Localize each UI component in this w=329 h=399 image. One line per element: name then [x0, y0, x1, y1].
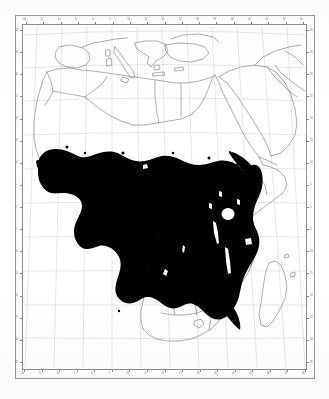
lon-label-bottom-16: 60	[302, 372, 305, 375]
lon-label-top-9: 25	[179, 18, 182, 21]
lat-tick-right-13	[307, 318, 309, 319]
lon-tick-bottom-6	[129, 370, 130, 372]
lon-tick-bottom-0	[24, 370, 25, 372]
lon-label-bottom-3: 5	[74, 372, 75, 375]
lon-tick-bottom-10	[200, 370, 201, 372]
lat-label-right-4: 20	[310, 117, 313, 120]
lat-tick-right-3	[307, 96, 309, 97]
lon-tick-bottom-4	[94, 370, 95, 372]
lat-label-right-7: 5	[310, 183, 311, 186]
lat-label-right-14: 30	[310, 338, 313, 341]
lon-label-top-7: 15	[144, 18, 147, 21]
lon-label-bottom-2: 10	[56, 372, 59, 375]
lat-label-left-14: 30	[15, 338, 18, 341]
lon-label-top-15: 55	[283, 18, 286, 21]
lat-tick-right-8	[307, 207, 309, 208]
lon-tick-bottom-1	[42, 370, 43, 372]
lat-tick-right-2	[307, 74, 309, 75]
lon-label-top-8: 20	[162, 18, 165, 21]
lon-label-bottom-1: 15	[39, 372, 42, 375]
lon-tick-bottom-14	[270, 370, 271, 372]
lat-label-left-4: 20	[15, 117, 18, 120]
lon-label-bottom-12: 40	[232, 372, 235, 375]
lon-tick-bottom-2	[59, 370, 60, 372]
lon-label-bottom-5: 5	[109, 372, 110, 375]
lat-tick-right-14	[307, 340, 309, 341]
lat-label-right-8: 0	[310, 206, 311, 209]
lon-label-bottom-14: 50	[267, 372, 270, 375]
lon-tick-bottom-16	[305, 370, 306, 372]
lon-label-bottom-8: 20	[162, 372, 165, 375]
lat-label-right-12: 20	[310, 294, 313, 297]
lon-label-top-1: 15	[40, 18, 43, 21]
lon-label-top-14: 50	[265, 18, 268, 21]
lat-tick-right-15	[307, 362, 309, 363]
lat-tick-right-4	[307, 119, 309, 120]
lon-label-top-10: 30	[196, 18, 199, 21]
lon-tick-bottom-12	[235, 370, 236, 372]
lon-label-top-13: 45	[248, 18, 251, 21]
lat-label-left-12: 20	[15, 294, 18, 297]
lat-label-left-6: 10	[15, 161, 18, 164]
africa-distribution-map	[23, 25, 306, 369]
lon-label-bottom-13: 45	[249, 372, 252, 375]
lat-tick-right-10	[307, 251, 309, 252]
map-neatline	[22, 24, 307, 370]
lat-label-right-13: 25	[310, 316, 313, 319]
lat-tick-right-5	[307, 141, 309, 142]
lat-tick-right-1	[307, 52, 309, 53]
lon-label-bottom-0: 20	[21, 372, 24, 375]
lon-label-bottom-10: 30	[197, 372, 200, 375]
distribution-shading	[36, 146, 263, 331]
lon-label-top-3: 5	[75, 18, 76, 21]
lat-label-left-9: 5	[15, 228, 16, 231]
lon-label-top-0: 20	[23, 18, 26, 21]
lat-label-right-15: 35	[310, 361, 313, 364]
lat-label-left-11: 15	[15, 272, 18, 275]
lat-tick-right-6	[307, 163, 309, 164]
lat-label-right-6: 10	[310, 161, 313, 164]
lon-label-bottom-15: 55	[284, 372, 287, 375]
lon-label-top-16: 60	[300, 18, 303, 21]
lat-label-left-10: 10	[15, 250, 18, 253]
lon-label-top-11: 35	[213, 18, 216, 21]
lon-label-bottom-7: 15	[144, 372, 147, 375]
lon-tick-bottom-11	[217, 370, 218, 372]
lat-label-right-3: 25	[310, 95, 313, 98]
lon-tick-bottom-7	[147, 370, 148, 372]
lat-label-left-0: 40	[15, 29, 18, 32]
page-canvas: 2020151510105500551010151520202525303035…	[0, 0, 329, 399]
lon-tick-bottom-5	[112, 370, 113, 372]
lat-label-left-3: 25	[15, 95, 18, 98]
lat-label-right-1: 35	[310, 51, 313, 54]
lat-label-right-5: 15	[310, 139, 313, 142]
lat-tick-right-12	[307, 296, 309, 297]
lon-tick-bottom-15	[287, 370, 288, 372]
lon-label-bottom-11: 35	[214, 372, 217, 375]
lon-label-bottom-4: 0	[91, 372, 92, 375]
lon-label-top-2: 10	[58, 18, 61, 21]
lon-tick-bottom-3	[77, 370, 78, 372]
lat-label-left-1: 35	[15, 51, 18, 54]
lat-label-left-2: 30	[15, 73, 18, 76]
lat-tick-right-7	[307, 185, 309, 186]
lon-tick-bottom-13	[252, 370, 253, 372]
lat-label-left-15: 35	[15, 361, 18, 364]
lon-label-top-12: 40	[231, 18, 234, 21]
lat-label-right-9: 5	[310, 228, 311, 231]
lat-label-right-10: 10	[310, 250, 313, 253]
lat-tick-right-0	[307, 30, 309, 31]
lat-tick-right-9	[307, 229, 309, 230]
lat-label-left-7: 5	[15, 183, 16, 186]
lat-label-right-0: 40	[310, 29, 313, 32]
lon-tick-bottom-8	[165, 370, 166, 372]
lat-label-left-5: 15	[15, 139, 18, 142]
lon-label-top-6: 10	[127, 18, 130, 21]
lat-label-right-2: 30	[310, 73, 313, 76]
lon-label-top-4: 0	[92, 18, 93, 21]
lon-tick-bottom-9	[182, 370, 183, 372]
lat-label-left-8: 0	[15, 206, 16, 209]
lat-label-right-11: 15	[310, 272, 313, 275]
lat-label-left-13: 25	[15, 316, 18, 319]
lon-label-bottom-9: 25	[179, 372, 182, 375]
